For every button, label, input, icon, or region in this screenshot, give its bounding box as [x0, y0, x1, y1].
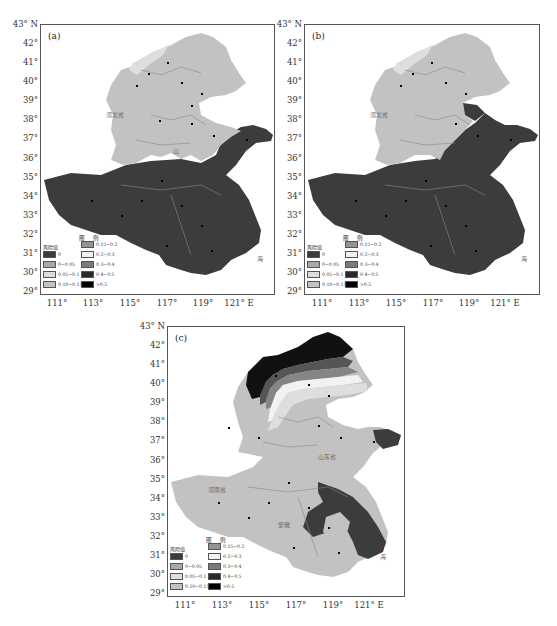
- y-tick: 35°: [131, 474, 165, 484]
- x-tick: 113°: [76, 298, 110, 308]
- legend-item-0: 0: [307, 251, 325, 258]
- y-tick: 36°: [268, 153, 302, 163]
- y-tick: 31°: [131, 550, 165, 560]
- legend-swatch: [43, 261, 56, 268]
- x-tick: 111°: [305, 298, 339, 308]
- legend-swatch: [81, 261, 94, 268]
- sea-label: 海: [521, 255, 527, 263]
- legend-b: 图 例 风险值 0 0~0.05 0.05~0.1 0.10~0.15 0.15…: [307, 235, 417, 293]
- map-frame-c: 山东省 河南省 安徽 海 (c) 图 例 风险值 0 0~0.05 0.05~0…: [167, 326, 405, 597]
- y-tick: 39°: [131, 397, 165, 407]
- x-tick: 117°: [416, 298, 450, 308]
- y-tick: 30°: [4, 267, 38, 277]
- province-label-anhui: 安徽: [278, 521, 290, 529]
- legend-item-4: 0.15~0.2: [208, 543, 244, 550]
- y-tick: 37°: [4, 133, 38, 143]
- x-tick: 121° E: [222, 298, 256, 308]
- legend-item-8: >0.5: [345, 281, 371, 288]
- y-tick: 33°: [268, 210, 302, 220]
- legend-swatch: [81, 251, 94, 258]
- x-tick: 113°: [342, 298, 376, 308]
- y-tick: 32°: [268, 229, 302, 239]
- legend-item-3: 0.10~0.15: [43, 281, 82, 288]
- legend-item-2: 0.05~0.1: [307, 271, 343, 278]
- legend-header: 风险值: [170, 546, 185, 553]
- y-tick: 43° N: [268, 19, 302, 29]
- legend-item-0: 0: [43, 251, 61, 258]
- y-tick: 35°: [4, 172, 38, 182]
- y-tick: 40°: [131, 378, 165, 388]
- legend-item-8: >0.5: [81, 281, 107, 288]
- legend-item-7: 0.4~0.5: [81, 271, 114, 278]
- y-tick: 38°: [131, 416, 165, 426]
- legend-swatch: [81, 271, 94, 278]
- y-tick: 35°: [268, 172, 302, 182]
- x-tick: 119°: [316, 600, 350, 610]
- y-tick: 42°: [131, 340, 165, 350]
- legend-item-8: >0.5: [208, 583, 234, 590]
- legend-swatch: [307, 251, 320, 258]
- province-label-hebei: 河北省: [370, 111, 388, 119]
- y-tick: 31°: [268, 248, 302, 258]
- y-tick: 43° N: [4, 19, 38, 29]
- x-tick: 113°: [205, 600, 239, 610]
- y-tick: 37°: [131, 435, 165, 445]
- y-tick: 34°: [268, 191, 302, 201]
- y-tick: 31°: [4, 248, 38, 258]
- legend-swatch: [81, 241, 94, 248]
- y-tick: 29°: [131, 588, 165, 598]
- y-tick: 41°: [4, 57, 38, 67]
- y-tick: 41°: [268, 57, 302, 67]
- legend-item-4: 0.15~0.2: [81, 241, 117, 248]
- y-tick: 40°: [268, 76, 302, 86]
- panel-label-a: (a): [48, 31, 60, 41]
- legend-item-6: 0.3~0.4: [208, 563, 241, 570]
- y-tick: 37°: [268, 133, 302, 143]
- legend-item-6: 0.3~0.4: [81, 261, 114, 268]
- legend-item-1: 0~0.05: [307, 261, 339, 268]
- legend-item-1: 0~0.05: [170, 563, 202, 570]
- legend-swatch: [208, 543, 221, 550]
- x-tick: 121° E: [352, 600, 386, 610]
- y-tick: 42°: [268, 38, 302, 48]
- legend-swatch: [345, 261, 358, 268]
- province-label-shandong: 山东省: [318, 453, 336, 461]
- y-tick: 34°: [131, 493, 165, 503]
- legend-swatch: [345, 251, 358, 258]
- legend-swatch: [208, 563, 221, 570]
- x-tick: 111°: [40, 298, 74, 308]
- legend-swatch: [345, 281, 358, 288]
- y-tick: 34°: [4, 191, 38, 201]
- y-tick: 36°: [4, 153, 38, 163]
- legend-swatch: [208, 583, 221, 590]
- legend-swatch: [43, 251, 56, 258]
- province-label-hebei: 河北省: [106, 111, 124, 119]
- legend-swatch: [170, 583, 183, 590]
- legend-swatch: [307, 271, 320, 278]
- legend-swatch: [81, 281, 94, 288]
- legend-swatch: [43, 271, 56, 278]
- y-tick: 32°: [4, 229, 38, 239]
- legend-swatch: [170, 553, 183, 560]
- y-tick: 41°: [131, 359, 165, 369]
- y-tick: 43° N: [131, 321, 165, 331]
- legend-header: 风险值: [43, 244, 58, 251]
- x-tick: 119°: [452, 298, 486, 308]
- y-tick: 39°: [4, 95, 38, 105]
- legend-swatch: [345, 271, 358, 278]
- y-tick: 36°: [131, 455, 165, 465]
- legend-item-5: 0.2~0.3: [208, 553, 241, 560]
- legend-header: 风险值: [307, 244, 322, 251]
- x-tick: 117°: [279, 600, 313, 610]
- x-tick: 117°: [150, 298, 184, 308]
- x-tick: 111°: [168, 600, 202, 610]
- legend-item-3: 0.10~0.15: [307, 281, 346, 288]
- map-frame-b: 河北省 海 (b) 图 例 风险值 0 0~0.05 0.05~0.1 0.10…: [304, 24, 540, 295]
- legend-item-5: 0.2~0.3: [345, 251, 378, 258]
- legend-swatch: [208, 553, 221, 560]
- legend-item-2: 0.05~0.1: [170, 573, 206, 580]
- y-tick: 39°: [268, 95, 302, 105]
- y-tick: 38°: [4, 114, 38, 124]
- sea-label: 海: [257, 255, 263, 263]
- legend-item-0: 0: [170, 553, 188, 560]
